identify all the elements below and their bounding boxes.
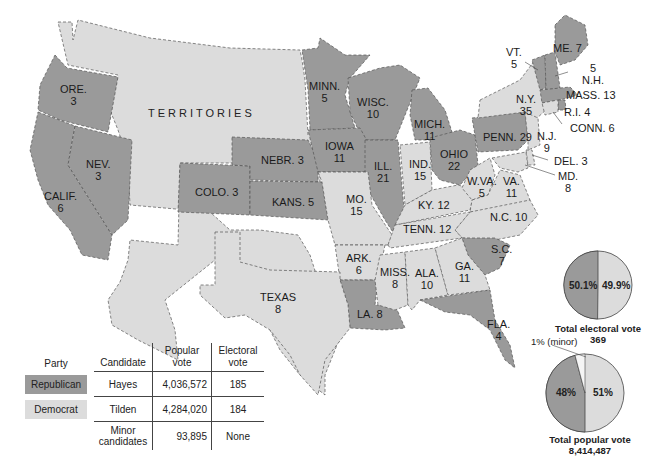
state-label-ri: R.I. 4: [564, 106, 590, 118]
state-conn: [542, 100, 558, 115]
header-candidate: Candidate: [94, 343, 153, 372]
candidate-cell: Minor candidates: [94, 422, 153, 451]
table-row: Democrat Tilden 4,284,020 184: [18, 397, 264, 422]
minor-leader-line: [550, 340, 590, 360]
state-label-mass: MASS. 13: [566, 89, 616, 101]
popular-vote-cell: 4,284,020: [153, 397, 212, 422]
party-badge-democrat: Democrat: [25, 400, 87, 419]
state-label-kans: KANS. 5: [272, 196, 314, 208]
state-label-sc: S.C.7: [491, 243, 512, 267]
state-label-del: DEL. 3: [554, 155, 588, 167]
party-cell-empty: [18, 422, 94, 451]
table-row: Minor candidates 93,895 None: [18, 422, 264, 451]
state-label-nh: 5N.H.: [582, 62, 604, 86]
popular-rep-pct: 48%: [556, 387, 576, 398]
state-label-mich: MICH.11: [414, 118, 445, 142]
table-header-row: Party Candidate Popular vote Electoral v…: [18, 343, 264, 372]
state-label-calif: CALIF.6: [44, 190, 77, 214]
popular-caption: Total popular vote8,414,487: [540, 434, 640, 456]
header-popular-vote: Popular vote: [153, 343, 212, 372]
state-label-la: LA. 8: [357, 308, 383, 320]
state-label-ala: ALA.10: [415, 267, 439, 291]
popular-vote-cell: 4,036,572: [153, 372, 212, 397]
state-label-md: MD.8: [558, 170, 578, 194]
state-label-ark: ARK.6: [346, 252, 372, 276]
state-label-nj: N.J.9: [537, 130, 557, 154]
electoral-vote-cell: 184: [212, 397, 265, 422]
state-label-iowa: IOWA11: [325, 140, 354, 164]
state-md: [492, 152, 528, 172]
electoral-vote-cell: None: [212, 422, 265, 451]
state-label-tenn: TENN. 12: [403, 223, 451, 235]
state-label-fla: FLA.4: [487, 318, 510, 342]
state-label-nc: N.C. 10: [490, 211, 527, 223]
state-label-wisc: WISC.10: [357, 96, 389, 120]
popular-vote-cell: 93,895: [153, 422, 212, 451]
results-table: Party Candidate Popular vote Electoral v…: [18, 343, 264, 450]
state-label-penn: PENN. 29: [483, 131, 532, 143]
state-label-nev: NEV.3: [86, 158, 111, 182]
candidate-cell: Hayes: [94, 372, 153, 397]
state-label-miss: MISS.8: [380, 266, 410, 290]
state-me: [555, 15, 588, 65]
table-row: Republican Hayes 4,036,572 185: [18, 372, 264, 397]
state-label-me: ME. 7: [553, 42, 582, 54]
state-label-mo: MO.15: [346, 193, 367, 217]
state-label-va: VA.11: [503, 175, 520, 199]
state-label-wva: W.VA.5: [467, 175, 497, 199]
state-label-ohio: OHIO22: [440, 148, 468, 172]
state-label-conn: CONN. 6: [570, 122, 615, 134]
state-label-ore: ORE.3: [60, 83, 87, 107]
territories-label: TERRITORIES: [148, 107, 255, 119]
state-label-colo: COLO. 3: [195, 186, 238, 198]
state-label-ill: ILL.21: [374, 160, 392, 184]
state-label-ind: IND.15: [409, 158, 431, 182]
state-label-ky: KY. 12: [418, 199, 450, 211]
electoral-vote-cell: 185: [212, 372, 265, 397]
electoral-rep-pct: 50.1%: [569, 280, 597, 291]
state-label-texas: TEXAS8: [260, 291, 296, 315]
popular-dem-pct: 51%: [593, 387, 613, 398]
candidate-cell: Tilden: [94, 397, 153, 422]
header-electoral-vote: Electoral vote: [212, 343, 265, 372]
electoral-dem-pct: 49.9%: [602, 280, 630, 291]
state-label-ny: N.Y.35: [516, 93, 536, 117]
header-party: Party: [18, 343, 94, 372]
state-label-nebr: NEBR. 3: [261, 154, 304, 166]
party-badge-republican: Republican: [25, 375, 87, 394]
state-label-minn: MINN.5: [309, 80, 340, 104]
state-label-vt: VT.5: [506, 46, 522, 70]
state-label-ga: GA.11: [455, 260, 474, 284]
